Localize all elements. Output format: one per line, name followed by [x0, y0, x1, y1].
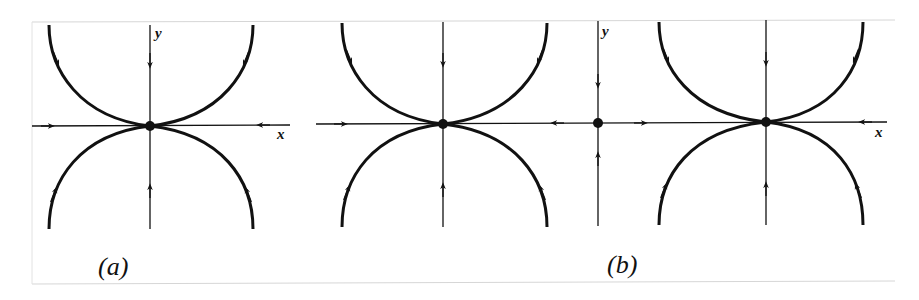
trajectory-right-ul [659, 22, 766, 122]
trajectory-left-lr [443, 124, 547, 227]
x-axis-label: x [276, 126, 285, 142]
panel-caption: (a) [98, 252, 128, 281]
fixed-point-left [438, 119, 448, 129]
trajectory-right-ll [659, 122, 766, 225]
trajectory-left-ul [342, 23, 443, 124]
trajectory-upper-right [150, 25, 253, 126]
trajectory-lower-left [49, 126, 150, 229]
frame-bottom [32, 281, 895, 284]
x-axis-label: x [874, 124, 883, 140]
y-axis-label: y [153, 25, 162, 41]
trajectory-lower-right [150, 126, 253, 229]
panel-a: y x (a) [32, 25, 290, 281]
trajectory-left-ll [342, 124, 443, 227]
fixed-point-right [761, 117, 771, 127]
phase-portrait-figure: y x (a) [0, 0, 919, 300]
trajectory-right-ur [766, 22, 863, 122]
trajectory-left-ur [443, 23, 547, 124]
y-axis-label: y [600, 23, 609, 39]
fixed-point [145, 121, 155, 131]
panel-b: y x (b) [316, 20, 887, 279]
panel-caption: (b) [607, 250, 637, 279]
trajectory-right-lr [766, 122, 863, 225]
trajectory-upper-left [49, 25, 150, 126]
fixed-point-origin [593, 118, 603, 128]
